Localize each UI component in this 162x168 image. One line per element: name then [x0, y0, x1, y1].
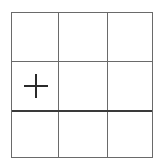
- cell-r2-c2[interactable]: [59, 62, 107, 110]
- cell-r1-c1[interactable]: [12, 13, 58, 61]
- grid-board: [11, 12, 153, 158]
- cell-r3-c1[interactable]: [12, 112, 58, 157]
- cell-r2-c3[interactable]: [108, 62, 153, 110]
- cell-r3-c2[interactable]: [59, 112, 107, 157]
- cell-r1-c3[interactable]: [108, 13, 153, 61]
- cell-r1-c2[interactable]: [59, 13, 107, 61]
- cell-r3-c3[interactable]: [108, 112, 153, 157]
- plus-icon: [24, 74, 48, 98]
- cell-r2-c1[interactable]: [12, 62, 58, 110]
